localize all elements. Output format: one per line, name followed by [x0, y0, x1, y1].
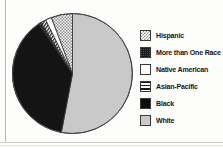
- legend-item-white: White: [140, 114, 223, 127]
- empty-swatch-icon: [140, 64, 151, 75]
- checker-swatch-icon: [140, 30, 151, 41]
- legend-item-black: Black: [140, 97, 223, 110]
- legend-label-more-than-one-race: More than One Race: [156, 48, 221, 57]
- frame-bottom-rule: [0, 142, 223, 143]
- legend-item-asian-pacific: Asian-Pacific: [140, 80, 223, 93]
- pie-chart: [12, 12, 133, 136]
- black-swatch-icon: [140, 98, 151, 109]
- legend-item-more-than-one-race: More than One Race: [140, 46, 223, 59]
- pie-chart-figure: Hispanic More than One Race Native Ameri…: [0, 0, 223, 148]
- frame-bottom-rule-secondary: [0, 145, 223, 146]
- dark-dense-swatch-icon: [140, 47, 151, 58]
- pie-chart-svg: [12, 12, 133, 136]
- legend-label-white: White: [156, 116, 174, 125]
- legend-label-asian-pacific: Asian-Pacific: [156, 82, 198, 91]
- chart-legend: Hispanic More than One Race Native Ameri…: [140, 29, 223, 131]
- legend-item-native-american: Native American: [140, 63, 223, 76]
- legend-label-native-american: Native American: [156, 65, 208, 74]
- legend-label-hispanic: Hispanic: [156, 31, 184, 40]
- horizontal-stripe-swatch-icon: [140, 81, 151, 92]
- legend-item-hispanic: Hispanic: [140, 29, 223, 42]
- frame-left-rule: [5, 0, 6, 143]
- legend-label-black: Black: [156, 99, 174, 108]
- light-gray-swatch-icon: [140, 115, 151, 126]
